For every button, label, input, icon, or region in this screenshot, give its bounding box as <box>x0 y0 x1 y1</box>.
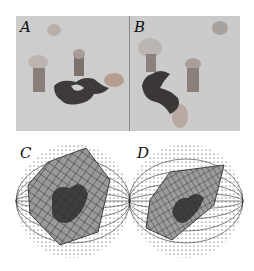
sphere-diagrams <box>0 0 254 271</box>
sphere-c <box>16 144 130 258</box>
panel-c-label: C <box>20 146 31 161</box>
panel-d-label: D <box>137 146 149 161</box>
